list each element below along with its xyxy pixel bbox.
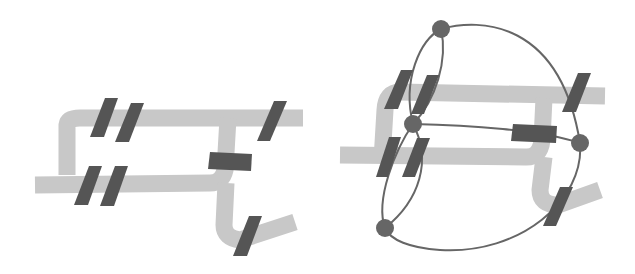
node-bottom <box>376 219 394 237</box>
road-network-diagram <box>0 0 635 274</box>
node-top <box>432 20 450 38</box>
road-3 <box>540 157 600 205</box>
diagram-stage <box>0 0 635 274</box>
panel-right-dual-graph <box>340 20 605 250</box>
node-right <box>571 134 589 152</box>
road-3 <box>224 183 295 240</box>
seg-middle <box>511 124 557 143</box>
panel-left-road-network <box>35 98 303 256</box>
node-center-left <box>404 115 422 133</box>
seg-middle <box>208 152 252 171</box>
